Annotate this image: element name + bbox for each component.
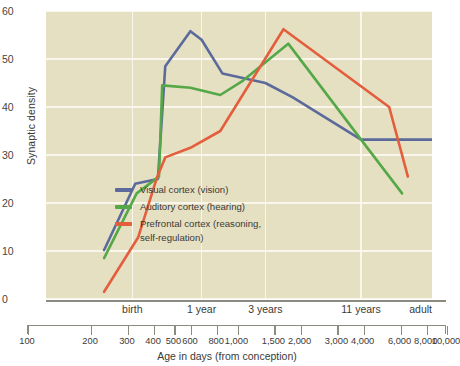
plot-area [46,11,432,299]
y-tick-label: 40 [0,101,28,113]
x-tickmark [427,326,428,335]
x-axis-title: Age in days (from conception) [0,350,454,362]
x-tickmark [401,326,402,335]
stage-label-birth: birth [122,303,142,315]
y-tick-label: 30 [0,149,28,161]
legend-item-0: Visual cortex (vision) [115,183,261,197]
x-tick-label: 500 [166,336,182,346]
legend-swatch-icon [115,188,132,192]
x-tick-label: 3,000 [325,336,348,346]
x-tickmark [274,326,275,335]
x-tick-label: 400 [145,336,161,346]
stage-label-adult: adult [409,303,432,315]
plot-inner [46,11,432,299]
x-tick-label: 6,000 [388,336,411,346]
x-tick-label: 300 [119,336,135,346]
x-tickmark [91,326,92,335]
x-tickmark [447,326,448,335]
x-tick-label: 10,000 [432,336,460,346]
series-layer [46,11,432,299]
x-tick-label: 600 [182,336,198,346]
x-tickmark [28,326,29,335]
x-tick-label: 1,000 [225,336,248,346]
y-tick-label: 20 [0,197,28,209]
x-tickmark [337,326,338,335]
x-tick-label: 4,000 [351,336,374,346]
x-tick-label: 100 [19,336,35,346]
x-tickmark [128,326,129,335]
x-tickmark [191,326,192,335]
log-axis-bar [27,325,446,334]
stage-label-1-year: 1 year [187,303,216,315]
x-tickmark [238,326,239,335]
x-tickmark [217,326,218,335]
legend-swatch-icon [115,222,132,226]
legend-label: Prefrontal cortex (reasoning, self-regul… [140,217,261,244]
x-tickmark [174,326,175,335]
y-tick-label: 50 [0,53,28,65]
y-tick-label: 60 [0,5,28,17]
legend-item-1: Auditory cortex (hearing) [115,200,261,214]
y-tick-label: 10 [0,245,28,257]
x-tickmark [154,326,155,335]
x-tick-label: 2,000 [288,336,311,346]
chart-legend: Visual cortex (vision)Auditory cortex (h… [115,183,261,248]
x-tick-label: 200 [82,336,98,346]
y-axis-title: Synaptic density [25,46,37,206]
x-tickmark [364,326,365,335]
y-tick-label: 0 [0,293,28,305]
x-tick-label: 1,500 [262,336,285,346]
stage-label-3-years: 3 years [248,303,282,315]
legend-item-2: Prefrontal cortex (reasoning, self-regul… [115,217,261,244]
stage-label-11-years: 11 years [341,303,381,315]
x-tickmark [301,326,302,335]
legend-label: Auditory cortex (hearing) [140,200,245,214]
x-axis-baseline [46,300,446,302]
legend-label: Visual cortex (vision) [140,183,228,197]
legend-swatch-icon [115,205,132,209]
x-tick-label: 800 [208,336,224,346]
